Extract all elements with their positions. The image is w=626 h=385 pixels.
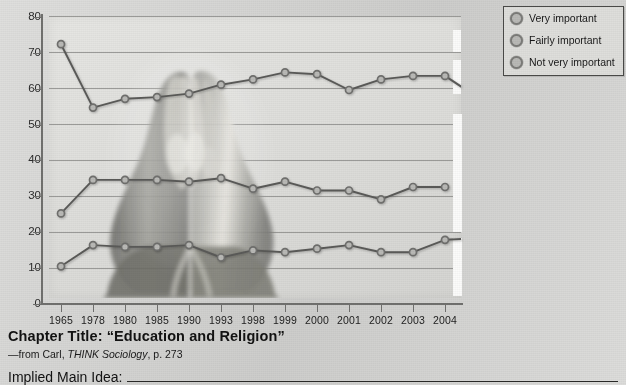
x-axis-label-2001: 2001 <box>337 314 361 326</box>
x-axis-label-1993: 1993 <box>209 314 233 326</box>
data-point-marker[interactable] <box>122 176 129 183</box>
data-point-marker[interactable] <box>218 254 225 261</box>
data-point-marker[interactable] <box>186 178 193 185</box>
x-axis-label-1965: 1965 <box>49 314 73 326</box>
data-point-marker[interactable] <box>314 71 321 78</box>
x-axis-label-2000: 2000 <box>305 314 329 326</box>
circle-marker-icon <box>510 34 523 47</box>
data-point-marker[interactable] <box>442 184 449 191</box>
x-tick <box>349 305 350 312</box>
data-point-marker[interactable] <box>346 187 353 194</box>
data-point-marker[interactable] <box>410 72 417 79</box>
x-axis-label-2003: 2003 <box>401 314 425 326</box>
data-point-marker[interactable] <box>58 210 65 217</box>
y-tick-50 <box>33 125 41 126</box>
data-point-marker[interactable] <box>186 90 193 97</box>
y-axis-label-70: 70 <box>7 46 41 58</box>
data-point-marker[interactable] <box>282 178 289 185</box>
series-line <box>61 238 461 266</box>
x-tick <box>413 305 414 312</box>
source-citation: —from Carl, THINK Sociology, p. 273 <box>8 348 618 360</box>
y-axis-line <box>41 14 43 304</box>
x-tick <box>61 305 62 312</box>
data-point-marker[interactable] <box>378 196 385 203</box>
data-point-marker[interactable] <box>154 94 161 101</box>
implied-main-idea-input[interactable] <box>127 381 618 382</box>
x-tick <box>445 305 446 312</box>
data-point-marker[interactable] <box>410 249 417 256</box>
x-axis-label-1990: 1990 <box>177 314 201 326</box>
source-prefix: —from Carl, <box>8 348 65 360</box>
data-point-marker[interactable] <box>154 243 161 250</box>
legend-item-not-very-important[interactable]: Not very important <box>504 51 623 73</box>
data-point-marker[interactable] <box>90 104 97 111</box>
x-axis-label-2004: 2004 <box>433 314 457 326</box>
data-point-marker[interactable] <box>218 81 225 88</box>
y-axis-label-10: 10 <box>7 261 41 273</box>
y-tick-80 <box>33 17 41 18</box>
legend-label: Fairly important <box>529 34 601 46</box>
data-point-marker[interactable] <box>314 245 321 252</box>
y-tick-30 <box>33 196 41 197</box>
y-axis-label-20: 20 <box>7 225 41 237</box>
y-tick-60 <box>33 89 41 90</box>
y-tick-10 <box>33 268 41 269</box>
data-point-marker[interactable] <box>442 236 449 243</box>
data-point-marker[interactable] <box>186 242 193 249</box>
y-axis-label-40: 40 <box>7 153 41 165</box>
data-point-marker[interactable] <box>154 176 161 183</box>
x-tick <box>125 305 126 312</box>
data-point-marker[interactable] <box>346 87 353 94</box>
x-tick <box>157 305 158 312</box>
y-axis-label-50: 50 <box>7 118 41 130</box>
series-line <box>61 178 445 213</box>
implied-main-idea-label: Implied Main Idea: <box>8 369 122 385</box>
source-book-title: THINK Sociology <box>68 348 148 360</box>
chart-area: 80 70 60 50 40 30 20 10 0 <box>0 0 500 330</box>
x-tick <box>93 305 94 312</box>
data-point-marker[interactable] <box>90 242 97 249</box>
data-point-marker[interactable] <box>250 76 257 83</box>
data-point-marker[interactable] <box>314 187 321 194</box>
data-point-marker[interactable] <box>122 95 129 102</box>
chart-legend: Very important Fairly important Not very… <box>503 6 624 76</box>
series-svg <box>49 16 461 298</box>
data-point-marker[interactable] <box>378 76 385 83</box>
data-point-marker[interactable] <box>250 185 257 192</box>
x-tick <box>221 305 222 312</box>
source-suffix: , p. 273 <box>147 348 182 360</box>
data-point-marker[interactable] <box>346 242 353 249</box>
data-point-marker[interactable] <box>218 175 225 182</box>
x-tick <box>189 305 190 312</box>
worksheet-text-block: Chapter Title: “Education and Religion” … <box>8 328 618 385</box>
legend-label: Very important <box>529 12 597 24</box>
x-axis-label-1985: 1985 <box>145 314 169 326</box>
data-lines-layer <box>49 16 461 298</box>
data-point-marker[interactable] <box>410 184 417 191</box>
legend-item-fairly-important[interactable]: Fairly important <box>504 29 623 51</box>
data-point-marker[interactable] <box>282 249 289 256</box>
data-point-marker[interactable] <box>90 176 97 183</box>
circle-marker-icon <box>510 12 523 25</box>
chapter-title: Chapter Title: “Education and Religion” <box>8 328 618 344</box>
data-point-marker[interactable] <box>58 41 65 48</box>
x-tick <box>317 305 318 312</box>
data-point-marker[interactable] <box>250 247 257 254</box>
data-point-marker[interactable] <box>282 69 289 76</box>
legend-label: Not very important <box>529 56 615 68</box>
data-point-marker[interactable] <box>442 72 449 79</box>
data-point-marker[interactable] <box>122 243 129 250</box>
x-axis-label-1998: 1998 <box>241 314 265 326</box>
data-point-marker[interactable] <box>58 263 65 270</box>
x-tick <box>381 305 382 312</box>
y-axis-label-60: 60 <box>7 82 41 94</box>
y-axis-label-30: 30 <box>7 189 41 201</box>
circle-marker-icon <box>510 56 523 69</box>
x-tick <box>253 305 254 312</box>
x-axis-line <box>41 303 463 305</box>
x-tick <box>285 305 286 312</box>
data-point-marker[interactable] <box>378 249 385 256</box>
y-axis-label-0: 0 <box>7 297 41 309</box>
implied-main-idea-row: Implied Main Idea: <box>8 369 618 385</box>
legend-item-very-important[interactable]: Very important <box>504 7 623 29</box>
